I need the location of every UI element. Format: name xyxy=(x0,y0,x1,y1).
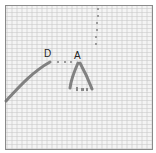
label-a: A xyxy=(74,51,81,61)
thread-a-left xyxy=(70,63,78,88)
thread-a-right xyxy=(80,63,92,89)
thread-d xyxy=(6,62,50,101)
stitch-holes xyxy=(76,87,88,91)
label-d: D xyxy=(44,49,51,59)
stitch-diagram xyxy=(0,0,156,153)
dotted-guide-line xyxy=(95,8,99,45)
dotted-connector xyxy=(57,61,72,63)
